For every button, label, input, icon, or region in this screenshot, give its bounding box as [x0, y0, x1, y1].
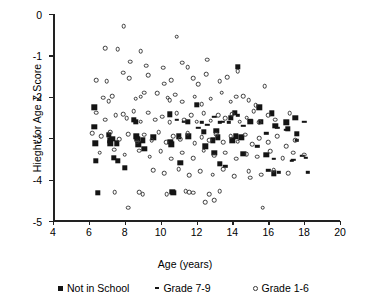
legend-item-grade-7-9[interactable]: Grade 7-9 — [155, 283, 211, 294]
data-point — [122, 152, 127, 157]
data-point — [201, 129, 206, 134]
data-point — [106, 99, 111, 104]
data-point — [95, 190, 100, 195]
data-point — [302, 152, 307, 157]
data-point — [198, 169, 203, 174]
data-point — [210, 172, 215, 177]
y-tick: 0 — [49, 14, 53, 15]
data-point — [257, 136, 262, 141]
data-point — [191, 191, 196, 196]
data-point — [139, 49, 144, 54]
data-point — [105, 79, 110, 84]
data-point — [268, 149, 273, 154]
data-point — [194, 119, 199, 124]
data-point — [142, 90, 147, 95]
chart-legend: Not in School Grade 7-9 Grade 1-6 — [0, 283, 370, 299]
data-point — [306, 171, 310, 173]
data-point — [259, 172, 264, 177]
data-point — [216, 113, 221, 118]
data-point — [284, 129, 288, 131]
x-tick — [161, 221, 162, 225]
data-point — [271, 168, 276, 173]
data-point — [218, 79, 223, 84]
data-point — [94, 78, 99, 83]
data-point — [262, 84, 267, 89]
legend-label-grade-1-6: Grade 1-6 — [262, 283, 309, 294]
data-point — [275, 134, 280, 139]
data-point — [221, 167, 226, 172]
plot-area: 0-1-2-3-4-5 468101214161820 — [53, 14, 340, 221]
legend-item-not-in-school[interactable]: Not in School — [58, 283, 129, 294]
data-point — [287, 111, 292, 116]
data-point — [243, 133, 248, 138]
legend-item-grade-1-6[interactable]: Grade 1-6 — [253, 283, 309, 294]
data-point — [218, 189, 223, 194]
data-point — [155, 91, 160, 96]
data-point — [235, 139, 240, 144]
x-tick — [53, 221, 54, 225]
data-point — [204, 72, 209, 77]
data-point — [200, 102, 205, 107]
data-point — [169, 142, 174, 147]
data-point — [241, 125, 245, 127]
data-point — [283, 120, 288, 125]
data-point — [170, 190, 175, 195]
y-axis-line — [53, 14, 55, 221]
data-point — [126, 205, 131, 210]
data-point — [253, 103, 258, 108]
data-point — [191, 76, 196, 81]
data-point — [115, 158, 120, 163]
y-tick: -4 — [49, 180, 53, 181]
data-point — [175, 118, 179, 120]
data-point — [178, 160, 183, 165]
data-point — [223, 150, 228, 155]
data-point — [99, 134, 104, 139]
data-point — [133, 119, 138, 124]
data-point — [167, 111, 172, 116]
data-point — [257, 120, 262, 125]
data-point — [286, 171, 291, 176]
x-tick — [232, 221, 233, 225]
data-point — [92, 140, 97, 145]
data-point — [171, 134, 176, 139]
data-point — [142, 133, 147, 138]
y-tick-label: -3 — [33, 134, 42, 145]
data-point — [122, 24, 127, 29]
data-point — [101, 95, 106, 100]
data-point — [92, 124, 97, 129]
data-point — [108, 130, 113, 135]
data-point — [244, 152, 249, 157]
data-point — [291, 150, 296, 155]
x-tick-label: 6 — [86, 227, 92, 238]
data-point — [271, 158, 275, 160]
data-point — [235, 69, 240, 74]
data-point — [124, 116, 129, 121]
data-point — [207, 192, 212, 197]
x-axis-title: Age (years) — [0, 258, 370, 270]
y-tick: -2 — [49, 97, 53, 98]
data-point — [92, 104, 97, 109]
x-tick-label: 8 — [122, 227, 128, 238]
data-point — [196, 82, 201, 87]
data-point — [153, 117, 158, 122]
data-point — [162, 81, 167, 86]
data-point — [275, 127, 279, 129]
data-point — [139, 119, 144, 124]
data-point — [97, 150, 102, 155]
x-tick-label: 16 — [262, 227, 274, 238]
data-point — [228, 99, 233, 104]
data-point — [164, 140, 169, 145]
y-tick-label: 0 — [36, 9, 42, 20]
data-point — [180, 99, 185, 104]
data-point — [144, 63, 149, 68]
data-point — [209, 97, 214, 102]
data-point — [244, 115, 249, 120]
data-point — [200, 121, 204, 123]
data-point — [173, 92, 178, 97]
data-point — [205, 57, 210, 62]
data-point — [90, 131, 95, 136]
data-point — [236, 114, 240, 116]
data-point — [160, 114, 165, 119]
data-point — [113, 190, 118, 195]
data-point — [294, 131, 299, 136]
